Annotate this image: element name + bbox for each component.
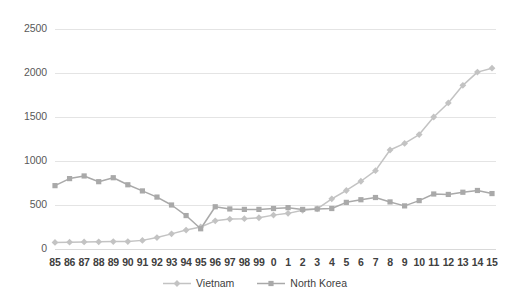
data-point-marker: [111, 175, 116, 180]
data-point-marker: [125, 182, 130, 187]
data-point-marker: [212, 217, 219, 224]
data-point-marker: [242, 207, 247, 212]
data-point-marker: [169, 202, 174, 207]
data-point-marker: [95, 238, 102, 245]
data-point-marker: [82, 173, 87, 178]
data-point-marker: [358, 197, 363, 202]
legend-marker-diamond-icon: [162, 278, 192, 289]
y-axis-tick-label: 2000: [7, 66, 47, 78]
data-point-marker: [271, 206, 276, 211]
data-point-marker: [213, 204, 218, 209]
data-point-marker: [168, 230, 175, 237]
data-point-marker: [52, 183, 57, 188]
data-point-marker: [198, 226, 203, 231]
data-point-marker: [344, 200, 349, 205]
data-point-marker: [300, 207, 305, 212]
data-point-marker: [256, 207, 261, 212]
data-point-marker: [226, 216, 233, 223]
y-axis-tick-label: 0: [7, 242, 47, 254]
data-point-marker: [315, 206, 320, 211]
data-point-marker: [401, 140, 408, 147]
data-point-marker: [431, 191, 436, 196]
data-point-marker: [329, 206, 334, 211]
data-point-marker: [285, 205, 290, 210]
y-axis-tick-label: 2500: [7, 22, 47, 34]
legend-label: North Korea: [290, 277, 347, 289]
data-point-marker: [417, 198, 422, 203]
data-point-marker: [227, 206, 232, 211]
data-point-marker: [402, 203, 407, 208]
series-vietnam: [52, 65, 496, 246]
data-point-marker: [154, 194, 159, 199]
data-point-marker: [66, 239, 73, 246]
data-point-marker: [270, 212, 277, 219]
data-point-marker: [110, 238, 117, 245]
legend-label: Vietnam: [196, 277, 234, 289]
series-layer: [52, 65, 496, 246]
data-point-marker: [67, 176, 72, 181]
chart-legend: VietnamNorth Korea: [0, 277, 509, 289]
legend-item-north-korea[interactable]: North Korea: [256, 277, 347, 289]
legend-marker-square-icon: [256, 278, 286, 289]
y-axis-tick-label: 1500: [7, 110, 47, 122]
data-point-marker: [241, 215, 248, 222]
y-axis-tick-label: 500: [7, 198, 47, 210]
data-point-marker: [460, 190, 465, 195]
series-line: [55, 176, 492, 229]
data-point-marker: [81, 239, 88, 246]
data-point-marker: [96, 179, 101, 184]
data-point-marker: [489, 65, 496, 72]
y-axis-tick-label: 1000: [7, 154, 47, 166]
data-point-marker: [489, 191, 494, 196]
legend-item-vietnam[interactable]: Vietnam: [162, 277, 234, 289]
series-north-korea: [52, 173, 494, 231]
data-point-marker: [183, 227, 190, 234]
data-point-marker: [475, 188, 480, 193]
data-point-marker: [154, 234, 161, 241]
data-point-marker: [140, 188, 145, 193]
data-point-marker: [139, 237, 146, 244]
data-point-marker: [52, 239, 59, 246]
line-chart: 05001000150020002500 8586878889909192939…: [0, 0, 509, 307]
data-point-marker: [387, 199, 392, 204]
data-point-marker: [285, 210, 292, 217]
x-axis-tick-label: 15: [481, 256, 503, 268]
data-point-marker: [256, 214, 263, 221]
data-point-marker: [184, 213, 189, 218]
data-point-marker: [446, 192, 451, 197]
data-point-marker: [124, 238, 131, 245]
data-point-marker: [373, 195, 378, 200]
